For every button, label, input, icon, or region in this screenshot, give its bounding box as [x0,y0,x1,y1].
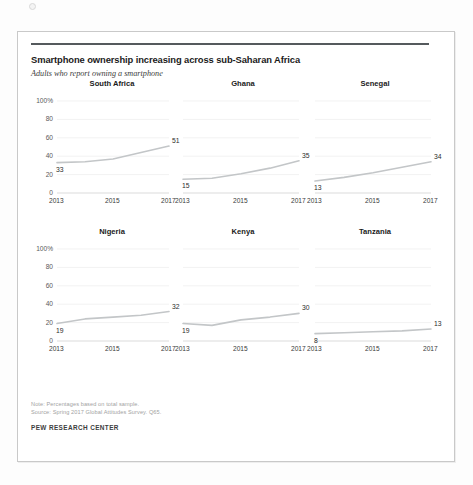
plot-area: 2013201520171930 [177,245,309,357]
y-axis-tick-label: 20 [31,319,53,326]
title-rule [31,43,429,45]
data-line [315,329,431,334]
data-label-first: 15 [182,182,190,189]
x-axis-tick-label: 2015 [365,345,380,352]
plot-area: 201320152017813 [309,245,441,357]
data-line [57,146,169,163]
data-label-last: 13 [434,320,442,327]
plot-area: 2013201520171334 [309,97,441,209]
plot-area: 2013201520171535 [177,97,309,209]
chart-svg [309,97,441,209]
x-axis-tick-label: 2013 [307,197,322,204]
x-axis-tick-label: 2017 [423,345,438,352]
data-line [183,313,299,325]
scan-speck-icon [29,3,36,10]
chart-row-top: South Africa 100%80604020020132015201733… [31,79,441,227]
x-axis-tick-label: 2015 [365,197,380,204]
x-axis-tick-label: 2017 [161,197,176,204]
chart-panel-kenya: Kenya 2013201520171930 [177,227,309,375]
chart-svg [177,245,309,357]
x-axis-tick-label: 2015 [105,345,120,352]
x-axis-tick-label: 2017 [291,197,306,204]
chart-panel-senegal: Senegal 2013201520171334 [309,79,441,227]
chart-row-bottom: Nigeria 100%8060402002013201520171932 Ke… [31,227,441,375]
y-axis-tick-label: 80 [31,115,53,122]
data-label-first: 13 [314,184,322,191]
card-content: Smartphone ownership increasing across s… [31,43,441,451]
chart-panel-nigeria: Nigeria 100%8060402002013201520171932 [31,227,177,375]
chart-panel-tanzania: Tanzania 201320152017813 [309,227,441,375]
chart-svg [177,97,309,209]
x-axis-tick-label: 2013 [49,345,64,352]
x-axis-tick-label: 2015 [233,345,248,352]
x-axis-tick-label: 2017 [161,345,176,352]
x-axis-tick-label: 2017 [423,197,438,204]
x-axis-tick-label: 2017 [291,345,306,352]
data-label-first: 33 [56,166,64,173]
data-label-first: 8 [314,337,318,344]
panel-title: Senegal [309,79,441,88]
chart-grid: South Africa 100%80604020020132015201733… [31,79,441,375]
data-label-first: 19 [182,327,190,334]
page-title: Smartphone ownership increasing across s… [31,54,441,66]
data-label-last: 34 [434,153,442,160]
chart-panel-south-africa: South Africa 100%80604020020132015201733… [31,79,177,227]
chart-footer: Note: Percentages based on total sample.… [31,401,441,431]
data-line [315,162,431,181]
data-line [57,312,169,324]
y-axis-tick-label: 80 [31,263,53,270]
y-axis-tick-label: 40 [31,300,53,307]
panel-title: Nigeria [31,227,177,236]
data-label-first: 19 [56,327,64,334]
x-axis-tick-label: 2013 [175,197,190,204]
footnote-note: Note: Percentages based on total sample. [31,401,441,409]
plot-area: 100%8060402002013201520171932 [31,245,177,357]
data-line [183,161,299,179]
footnote-source: Source: Spring 2017 Global Attitudes Sur… [31,409,441,417]
plot-area: 100%8060402002013201520173351 [31,97,177,209]
panel-title: Kenya [177,227,309,236]
chart-svg [309,245,441,357]
chart-panel-ghana: Ghana 2013201520171535 [177,79,309,227]
x-axis-tick-label: 2015 [105,197,120,204]
y-axis-tick-label: 100% [31,245,53,252]
y-axis-tick-label: 20 [31,171,53,178]
x-axis-tick-label: 2013 [307,345,322,352]
panel-title: Tanzania [309,227,441,236]
x-axis-tick-label: 2013 [49,197,64,204]
y-axis-tick-label: 0 [31,189,53,196]
y-axis-tick-label: 60 [31,282,53,289]
page-subtitle: Adults who report owning a smartphone [31,69,441,79]
page-canvas: Smartphone ownership increasing across s… [0,0,473,485]
y-axis-tick-label: 0 [31,337,53,344]
y-axis-tick-label: 100% [31,97,53,104]
panel-title: Ghana [177,79,309,88]
y-axis-tick-label: 60 [31,134,53,141]
x-axis-tick-label: 2013 [175,345,190,352]
y-axis-tick-label: 40 [31,152,53,159]
panel-title: South Africa [31,79,177,88]
x-axis-tick-label: 2015 [233,197,248,204]
brand-label: PEW RESEARCH CENTER [31,424,441,431]
infographic-card: Smartphone ownership increasing across s… [17,31,455,462]
